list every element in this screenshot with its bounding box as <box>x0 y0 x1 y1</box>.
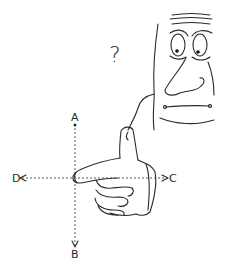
pointing-hand-illustration: ? <box>0 0 227 274</box>
label-a: A <box>71 111 79 124</box>
hand-drawing <box>73 127 156 215</box>
left-pupil <box>175 49 179 53</box>
label-c: C <box>169 172 177 185</box>
label-d: D <box>12 172 20 185</box>
axes: A B C D <box>12 111 177 261</box>
right-pupil <box>196 50 200 54</box>
label-b: B <box>71 248 79 261</box>
question-mark: ? <box>109 42 121 67</box>
face-drawing <box>128 14 214 131</box>
